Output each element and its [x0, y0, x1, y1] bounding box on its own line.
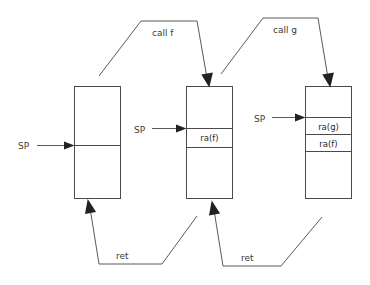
sp-arrow-head-2 — [176, 125, 187, 133]
ret-2-label: ret — [241, 253, 254, 263]
ret-1-arrow-head — [85, 199, 96, 214]
sp-arrow-head-1 — [64, 142, 75, 150]
sp-pointer-1-group: SP — [18, 141, 75, 151]
sp-pointer-2-group: SP — [134, 125, 187, 135]
sp-arrow-head-3 — [295, 114, 306, 122]
ret-2-arrow-head — [209, 201, 220, 216]
stack-1-group — [75, 87, 121, 199]
sp-label-2: SP — [134, 125, 146, 135]
ret-1-edge-group: ret — [85, 199, 197, 264]
sp-label-3: SP — [254, 114, 266, 124]
call-g-arrow-head — [322, 73, 334, 88]
ret-2-edge-group: ret — [209, 201, 322, 267]
diagram-canvas: SP ra(f) SP ra(g) ra(f) SP — [0, 0, 370, 285]
call-f-edge-group: call f — [99, 21, 213, 88]
stack-2-cell-raf-label: ra(f) — [200, 133, 218, 143]
sp-label-1: SP — [18, 141, 30, 151]
call-g-edge-group: call g — [221, 18, 334, 88]
stack-3-group: ra(g) ra(f) — [306, 87, 352, 199]
call-g-label: call g — [273, 25, 297, 35]
stack-2-group: ra(f) — [187, 87, 233, 199]
call-f-arrow-head — [201, 73, 213, 88]
ret-1-label: ret — [116, 251, 129, 261]
stack-3-cell-raf-label: ra(f) — [319, 139, 337, 149]
ret-2-arrow-line — [214, 210, 322, 266]
diagram-svg: SP ra(f) SP ra(g) ra(f) SP — [0, 0, 370, 285]
sp-pointer-3-group: SP — [254, 114, 306, 124]
ret-1-arrow-line — [90, 208, 197, 264]
call-f-label: call f — [152, 28, 174, 38]
stack-1-box — [75, 87, 121, 199]
stack-3-cell-rag-label: ra(g) — [318, 122, 339, 132]
